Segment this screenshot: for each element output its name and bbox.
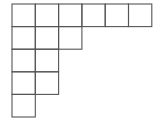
diagram-cell-r1-c2 <box>35 4 58 27</box>
diagram-cell-r1-c4 <box>82 4 105 27</box>
young-diagram <box>0 0 161 121</box>
diagram-cell-r2-c1 <box>12 27 35 50</box>
diagram-cell-r1-c6 <box>129 4 152 27</box>
diagram-cell-r4-c1 <box>12 72 35 95</box>
diagram-cell-r3-c1 <box>12 49 35 72</box>
diagram-cell-r3-c2 <box>35 49 58 72</box>
diagram-cell-r1-c5 <box>105 4 128 27</box>
diagram-cell-r4-c2 <box>35 72 58 95</box>
diagram-cell-r5-c1 <box>12 94 35 117</box>
diagram-cell-r1-c1 <box>12 4 35 27</box>
diagram-cell-r2-c3 <box>59 27 82 50</box>
diagram-cell-r1-c3 <box>59 4 82 27</box>
diagram-cell-r2-c2 <box>35 27 58 50</box>
